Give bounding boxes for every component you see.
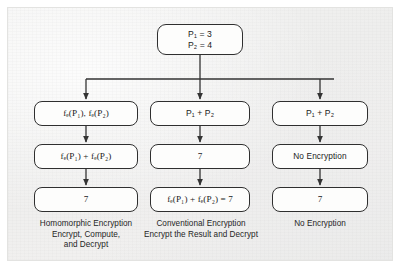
node-noencryption-step3: 7 (272, 187, 368, 212)
caption-conventional-line2: Encrypt the Result and Decrypt (140, 230, 262, 241)
node-homomorphic-step3: 7 (34, 187, 138, 212)
node-plaintext-p1: P₁ = 3 (188, 29, 212, 40)
node-noencryption-step1: P₁ + P₂ (272, 101, 368, 126)
node-plaintext-p2: P₂ = 4 (188, 40, 212, 51)
caption-homomorphic-line3: and Decrypt (22, 240, 150, 251)
caption-homomorphic-line1: Homomorphic Encryption (22, 219, 150, 230)
caption-conventional: Conventional Encryption Encrypt the Resu… (140, 219, 262, 240)
node-conventional-step1: P₁ + P₂ (150, 101, 250, 126)
caption-homomorphic-line2: Encrypt, Compute, (22, 230, 150, 241)
node-noencryption-step1-label: P₁ + P₂ (306, 108, 334, 118)
caption-noencryption: No Encryption (268, 219, 372, 230)
node-homomorphic-step1: fₑ(P₁), fₑ(P₂) (34, 101, 138, 126)
caption-homomorphic: Homomorphic Encryption Encrypt, Compute,… (22, 219, 150, 251)
node-conventional-step2: 7 (150, 144, 250, 169)
node-noencryption-step2-label: No Encryption (293, 152, 346, 162)
node-homomorphic-step3-label: 7 (84, 194, 89, 205)
node-conventional-step3-label: fₑ(P₁) + fₑ(P₂) = 7 (167, 194, 233, 205)
node-homomorphic-step1-label: fₑ(P₁), fₑ(P₂) (63, 108, 109, 119)
node-conventional-step1-label: P₁ + P₂ (186, 108, 214, 118)
node-homomorphic-step2-label: fₑ(P₁) + fₑ(P₂) (61, 151, 112, 162)
caption-conventional-line1: Conventional Encryption (140, 219, 262, 230)
node-noencryption-step2: No Encryption (272, 144, 368, 169)
node-plaintext-inputs: P₁ = 3 P₂ = 4 (157, 24, 243, 55)
node-noencryption-step3-label: 7 (318, 194, 323, 205)
node-conventional-step3: fₑ(P₁) + fₑ(P₂) = 7 (150, 187, 250, 212)
node-conventional-step2-label: 7 (198, 151, 203, 162)
node-homomorphic-step2: fₑ(P₁) + fₑ(P₂) (34, 144, 138, 169)
caption-noencryption-line1: No Encryption (268, 219, 372, 230)
encryption-flowchart-figure: P₁ = 3 P₂ = 4 fₑ(P₁), fₑ(P₂) fₑ(P₁) + fₑ… (0, 0, 400, 276)
